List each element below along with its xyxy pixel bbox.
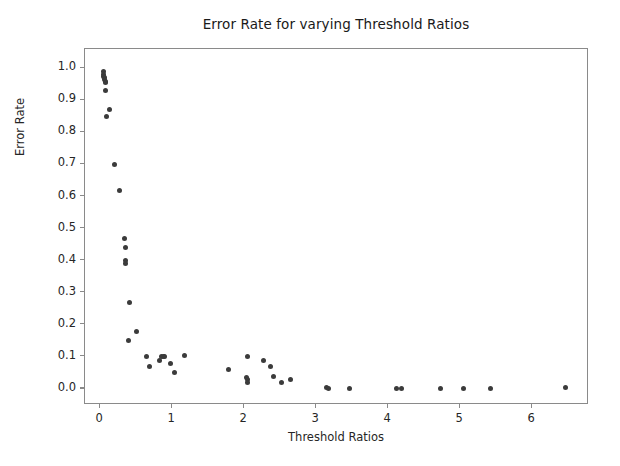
x-tick-mark bbox=[99, 404, 100, 408]
data-point bbox=[103, 80, 108, 85]
data-point bbox=[144, 354, 149, 359]
x-tick-label: 6 bbox=[519, 411, 543, 425]
y-tick-label: 0.6 bbox=[58, 188, 76, 202]
x-tick-label: 4 bbox=[375, 411, 399, 425]
data-point bbox=[279, 380, 284, 385]
x-tick-label: 1 bbox=[159, 411, 183, 425]
data-point bbox=[268, 364, 273, 369]
y-axis-label: Error Rate bbox=[13, 67, 27, 187]
data-point bbox=[103, 88, 108, 93]
y-tick-label: 0.8 bbox=[58, 123, 76, 137]
data-point bbox=[123, 245, 128, 250]
chart-figure: Error Rate for varying Threshold Ratios … bbox=[0, 0, 620, 466]
x-tick-label: 0 bbox=[87, 411, 111, 425]
data-point bbox=[122, 236, 127, 241]
data-point bbox=[261, 358, 266, 363]
data-point bbox=[134, 329, 139, 334]
x-axis-label: Threshold Ratios bbox=[84, 430, 588, 444]
data-point bbox=[438, 386, 443, 391]
y-tick-label: 0.3 bbox=[58, 284, 76, 298]
plot-area bbox=[84, 48, 588, 404]
data-point bbox=[347, 386, 352, 391]
data-point bbox=[461, 386, 466, 391]
y-tick-label: 1.0 bbox=[58, 59, 76, 73]
data-point bbox=[245, 354, 250, 359]
x-tick-label: 3 bbox=[303, 411, 327, 425]
data-point bbox=[147, 364, 152, 369]
x-tick-mark bbox=[171, 404, 172, 408]
data-point bbox=[182, 353, 187, 358]
x-tick-label: 2 bbox=[231, 411, 255, 425]
data-point bbox=[123, 261, 128, 266]
y-tick-label: 0.1 bbox=[58, 348, 76, 362]
data-point bbox=[563, 385, 568, 390]
data-point bbox=[488, 386, 493, 391]
x-tick-mark bbox=[243, 404, 244, 408]
data-point bbox=[107, 107, 112, 112]
x-tick-mark bbox=[315, 404, 316, 408]
x-tick-label: 5 bbox=[447, 411, 471, 425]
y-tick-label: 0.4 bbox=[58, 252, 76, 266]
data-point bbox=[226, 367, 231, 372]
data-point bbox=[104, 114, 109, 119]
chart-title: Error Rate for varying Threshold Ratios bbox=[84, 16, 588, 32]
y-tick-label: 0.9 bbox=[58, 91, 76, 105]
x-tick-mark bbox=[459, 404, 460, 408]
y-tick-label: 0.2 bbox=[58, 316, 76, 330]
data-point bbox=[399, 386, 404, 391]
y-tick-label: 0.5 bbox=[58, 220, 76, 234]
data-point bbox=[245, 380, 250, 385]
data-point bbox=[127, 300, 132, 305]
data-point bbox=[112, 162, 117, 167]
y-tick-label: 0.7 bbox=[58, 155, 76, 169]
y-tick-label: 0.0 bbox=[58, 380, 76, 394]
data-point bbox=[271, 374, 276, 379]
data-point bbox=[126, 338, 131, 343]
x-tick-mark bbox=[531, 404, 532, 408]
data-point bbox=[117, 188, 122, 193]
data-point bbox=[168, 361, 173, 366]
data-point bbox=[326, 386, 331, 391]
data-point bbox=[288, 377, 293, 382]
data-point bbox=[162, 354, 167, 359]
x-tick-mark bbox=[387, 404, 388, 408]
data-point bbox=[172, 370, 177, 375]
